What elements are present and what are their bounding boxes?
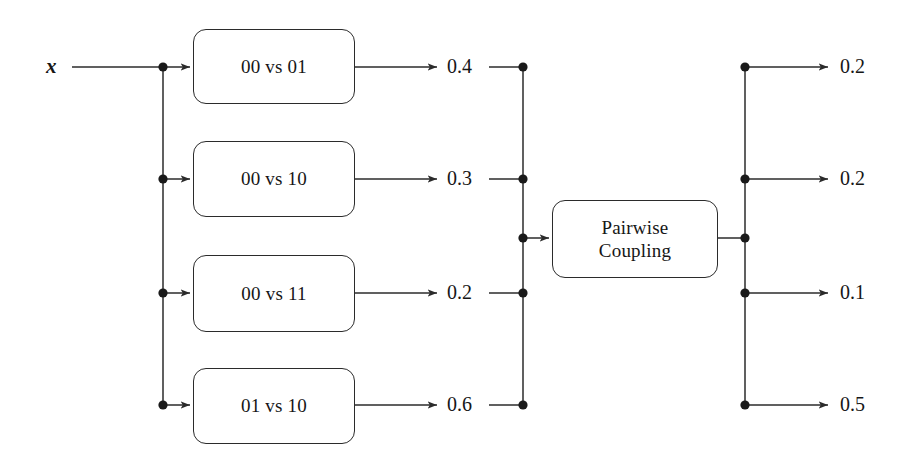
pairwise-output-value-3: 0.2 [447, 282, 472, 302]
classifier-box-2[interactable]: 00 vs 10 [193, 141, 355, 217]
pairwise-coupling-line-1: Pairwise [599, 216, 671, 239]
class-probability-value-3: 0.1 [840, 282, 865, 302]
pairwise-output-value-1: 0.4 [447, 56, 472, 76]
junction-dot-left-2 [158, 174, 167, 183]
pairwise-coupling-line-2: Coupling [599, 239, 671, 262]
junction-dot-right-5 [740, 400, 749, 409]
class-probability-value-1: 0.2 [840, 56, 865, 76]
junction-dot-right-2 [740, 174, 749, 183]
junction-dot-right-1 [740, 62, 749, 71]
pairwise-output-value-2: 0.3 [447, 168, 472, 188]
junction-dot-middle-4 [518, 288, 527, 297]
pairwise-output-value-4: 0.6 [447, 394, 472, 414]
input-label: x [46, 56, 57, 77]
junction-dot-left-3 [158, 288, 167, 297]
class-probability-value-2: 0.2 [840, 168, 865, 188]
junction-dot-middle-1 [518, 62, 527, 71]
diagram-canvas: x 00 vs 01 00 vs 10 00 vs 11 01 vs 10 0.… [0, 0, 918, 460]
junction-dot-right-4 [740, 288, 749, 297]
junction-dot-middle-3 [518, 233, 527, 242]
classifier-box-4[interactable]: 01 vs 10 [193, 368, 355, 444]
pairwise-coupling-box[interactable]: Pairwise Coupling [552, 200, 718, 278]
classifier-box-1[interactable]: 00 vs 01 [193, 29, 355, 104]
junction-dot-left-4 [158, 400, 167, 409]
junction-dot-middle-2 [518, 174, 527, 183]
junction-dot-middle-5 [518, 400, 527, 409]
classifier-box-3[interactable]: 00 vs 11 [193, 255, 355, 332]
class-probability-value-4: 0.5 [840, 394, 865, 414]
junction-dot-right-3 [740, 233, 749, 242]
junction-dot-left-1 [158, 62, 167, 71]
